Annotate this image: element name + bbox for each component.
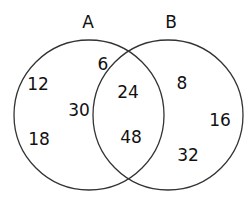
value-b-only-16: 16 [209, 112, 231, 129]
set-a-label: A [82, 14, 94, 31]
set-b-label: B [165, 14, 177, 31]
venn-diagram [0, 0, 252, 203]
value-b-only-8: 8 [177, 75, 188, 92]
value-a-only-6: 6 [98, 56, 109, 73]
value-intersection-24: 24 [117, 84, 139, 101]
value-a-only-12: 12 [27, 76, 49, 93]
value-b-only-32: 32 [177, 147, 199, 164]
value-intersection-48: 48 [120, 129, 142, 146]
value-a-only-30: 30 [68, 102, 90, 119]
value-a-only-18: 18 [28, 131, 50, 148]
